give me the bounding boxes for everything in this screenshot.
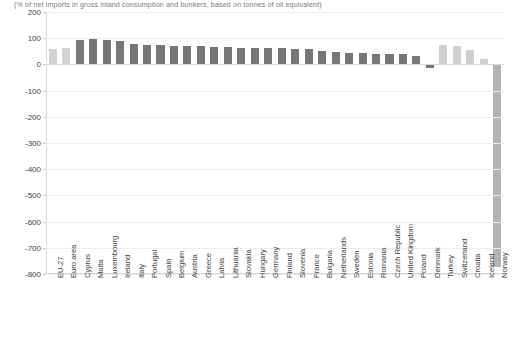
bar-france: [305, 49, 313, 64]
plot-area: 2001000-100-200-300-400-500-600-700-800: [46, 12, 504, 274]
x-axis-label: United Kingdom: [406, 224, 415, 278]
x-axis-label: Switzerland: [460, 239, 469, 278]
bar-united-kingdom: [399, 54, 407, 64]
x-axis-label: Romania: [379, 248, 388, 278]
gridline: [46, 222, 504, 223]
bar-czech-republic: [385, 54, 393, 64]
bar-belgium: [170, 46, 178, 65]
x-axis-label: Austria: [190, 254, 199, 278]
x-axis-label: EU-27: [56, 256, 65, 278]
bar-eu-27: [49, 49, 57, 64]
bar-slovenia: [291, 49, 299, 65]
x-axis-label: Latvia: [217, 258, 226, 278]
x-axis-label: Euro area: [69, 245, 78, 278]
x-axis-label: Slovakia: [244, 249, 253, 278]
y-axis-tick-mark: [43, 248, 46, 249]
x-axis-label: Italy: [137, 264, 146, 278]
y-axis-tick-label: -500: [25, 191, 41, 200]
y-axis-tick-mark: [43, 12, 46, 13]
bar-norway: [493, 64, 501, 267]
zero-line: [46, 64, 504, 65]
bar-ireland: [116, 41, 124, 64]
bar-latvia: [210, 47, 218, 65]
gridline: [46, 143, 504, 144]
bar-sweden: [345, 53, 353, 64]
x-axis-label: Luxembourg: [110, 236, 119, 278]
y-axis-tick-mark: [43, 222, 46, 223]
bar-spain: [156, 45, 164, 64]
bar-finland: [278, 48, 286, 64]
bar-netherlands: [332, 52, 340, 65]
bar-slovakia: [237, 48, 245, 65]
x-axis-label: Hungary: [258, 249, 267, 278]
gridline: [46, 169, 504, 170]
gridline: [46, 195, 504, 196]
bar-italy: [130, 44, 138, 64]
gridline: [46, 91, 504, 92]
gridline: [46, 117, 504, 118]
bar-luxembourg: [103, 40, 111, 64]
x-axis-label: Belgium: [177, 251, 186, 278]
bar-switzerland: [453, 46, 461, 65]
x-axis-label: France: [312, 254, 321, 278]
x-axis-label: Finland: [285, 253, 294, 278]
x-axis-label: Iceland: [487, 254, 496, 279]
y-axis-tick-mark: [43, 274, 46, 275]
bar-bulgaria: [318, 51, 326, 65]
x-axis-label: Malta: [96, 259, 105, 278]
x-axis-label: Netherlands: [339, 237, 348, 278]
y-axis-tick-mark: [43, 195, 46, 196]
bar-romania: [372, 54, 380, 65]
y-axis-tick-label: 0: [37, 60, 41, 69]
bar-croatia: [466, 50, 474, 64]
y-axis-tick-mark: [43, 64, 46, 65]
y-axis-tick-mark: [43, 38, 46, 39]
y-axis-tick-label: -600: [25, 217, 41, 226]
x-axis-label: Sweden: [352, 251, 361, 278]
bar-portugal: [143, 45, 151, 64]
x-axis-label: Czech Republic: [393, 225, 402, 278]
x-axis-label: Bulgaria: [325, 250, 334, 278]
y-axis-tick-label: 100: [28, 34, 41, 43]
gridline: [46, 12, 504, 13]
x-axis-label: Lithuania: [231, 247, 240, 278]
x-axis-label: Croatia: [473, 254, 482, 278]
bar-turkey: [439, 45, 447, 64]
gridline: [46, 38, 504, 39]
bar-hungary: [251, 48, 259, 65]
energy-dependency-chart: (% of net imports in gross inland consum…: [0, 0, 521, 341]
x-axis-label: Greece: [204, 253, 213, 278]
x-axis-label: Slovenia: [298, 249, 307, 278]
y-axis-tick-label: -800: [25, 270, 41, 279]
y-axis-tick-mark: [43, 143, 46, 144]
bar-germany: [264, 48, 272, 65]
y-axis-tick-mark: [43, 117, 46, 118]
bar-greece: [197, 46, 205, 65]
x-axis-label: Ireland: [123, 255, 132, 278]
bar-estonia: [359, 53, 367, 64]
bar-austria: [183, 46, 191, 65]
y-axis-tick-label: -100: [25, 86, 41, 95]
x-axis-label: Estonia: [366, 253, 375, 278]
x-axis-label: Denmark: [433, 247, 442, 278]
x-axis-label: Portugal: [150, 250, 159, 278]
y-axis-tick-label: -200: [25, 112, 41, 121]
x-axis-label: Poland: [419, 254, 428, 278]
y-axis-tick-label: 200: [28, 8, 41, 17]
y-axis-tick-label: -400: [25, 165, 41, 174]
y-axis-tick-label: -700: [25, 243, 41, 252]
bar-poland: [412, 56, 420, 64]
bar-lithuania: [224, 47, 232, 65]
x-axis-label: Cyprus: [83, 254, 92, 278]
y-axis-tick-label: -300: [25, 139, 41, 148]
chart-subtitle: (% of net imports in gross inland consum…: [14, 0, 514, 9]
x-axis-label: Germany: [271, 247, 280, 278]
bar-euro-area: [62, 48, 70, 64]
bar-malta: [89, 39, 97, 64]
bar-cyprus: [76, 40, 84, 64]
x-axis-label: Norway: [500, 252, 509, 278]
x-axis-label: Spain: [164, 259, 173, 278]
x-axis-label: Turkey: [446, 255, 455, 278]
y-axis-tick-mark: [43, 91, 46, 92]
y-axis-tick-mark: [43, 169, 46, 170]
